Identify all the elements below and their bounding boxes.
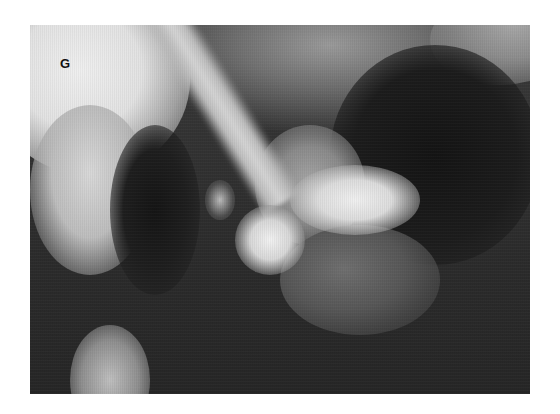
panel-label: G — [60, 56, 70, 71]
contrast-blob-round — [235, 205, 305, 275]
contrast-blob-upper — [290, 165, 420, 235]
radiograph-image: G — [30, 25, 530, 394]
contrast-blob-small — [205, 180, 235, 220]
left-air-lumen — [110, 125, 200, 295]
